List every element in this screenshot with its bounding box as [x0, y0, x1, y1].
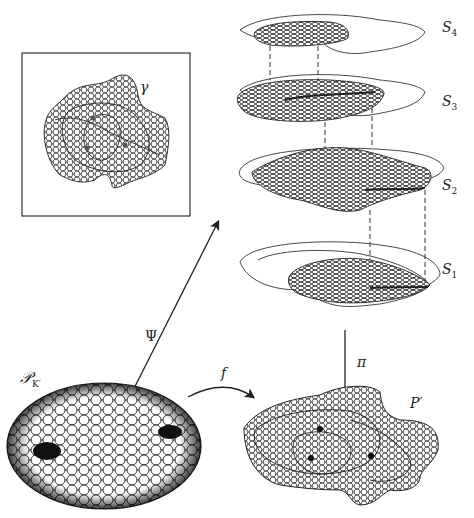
label-psi: Ψ: [145, 329, 157, 343]
sheet-stack: [237, 15, 444, 307]
label-sheet-s2: S2: [442, 178, 457, 196]
label-p-prime: P′: [410, 396, 423, 410]
sheet-s3: [237, 75, 425, 148]
label-sheet-s4: S4: [442, 20, 457, 38]
inset-panel: [22, 53, 190, 216]
sheet-s4: [240, 15, 425, 80]
label-f: f: [221, 366, 226, 380]
f-arrow: [188, 387, 253, 397]
label-sheet-s1: S1: [442, 262, 457, 280]
label-pi: π: [357, 355, 366, 369]
label-sheet-s3: S3: [442, 94, 457, 112]
sheet-s1: [240, 242, 440, 307]
label-gamma: γ: [140, 80, 148, 94]
label-pk: 𝒫K′: [20, 370, 41, 389]
diagram-canvas: [0, 0, 474, 518]
disk-packing: [7, 383, 201, 509]
